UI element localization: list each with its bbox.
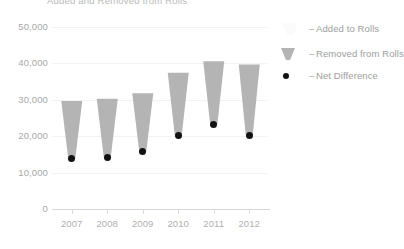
funnel-bar-2009[interactable] [132, 93, 153, 152]
net-difference-dot-2011[interactable] [210, 121, 217, 128]
y-tick-label-40000: 40,000 [2, 58, 48, 68]
x-tick-mark-2011 [214, 210, 215, 214]
net-difference-dot-2012[interactable] [246, 132, 253, 139]
chart-title: Added and Removed from Rolls [47, 0, 187, 6]
x-tick-label-2009: 2009 [123, 218, 163, 229]
x-tick-mark-2008 [107, 210, 108, 214]
x-tick-label-2011: 2011 [194, 218, 234, 229]
funnel-group [61, 61, 260, 159]
x-tick-label-2007: 2007 [52, 218, 92, 229]
gridline-40000 [52, 63, 267, 64]
y-tick-label-30000: 30,000 [2, 95, 48, 105]
gridline-10000 [52, 173, 267, 174]
gridline-20000 [52, 136, 267, 137]
y-tick-label-20000: 20,000 [2, 131, 48, 141]
y-tick-label-50000: 50,000 [2, 22, 48, 32]
legend-dash-2: – [309, 69, 314, 83]
dot-swatch-icon [277, 69, 303, 83]
x-tick-mark-2007 [72, 210, 73, 214]
y-axis: 50,000 40,000 30,000 20,000 10,000 0 [0, 0, 48, 249]
x-tick-mark-2010 [178, 210, 179, 214]
net-difference-dot-2007[interactable] [68, 155, 75, 162]
x-tick-label-2012: 2012 [229, 218, 269, 229]
funnel-bar-2008[interactable] [97, 99, 118, 158]
funnel-swatch-icon [277, 47, 303, 61]
funnel-top-swatch-icon [277, 22, 303, 36]
funnel-bar-2010[interactable] [168, 73, 189, 135]
legend-dash-1: – [309, 47, 314, 61]
y-tick-label-10000: 10,000 [2, 168, 48, 178]
x-tick-label-2010: 2010 [158, 218, 198, 229]
net-difference-dot-2009[interactable] [139, 148, 146, 155]
gridline-50000 [52, 27, 267, 28]
x-axis-baseline [52, 209, 270, 210]
legend-dash-0: – [309, 22, 314, 36]
x-tick-mark-2012 [249, 210, 250, 214]
legend-label-net-difference: Net Difference [316, 69, 378, 83]
funnel-bar-2011[interactable] [203, 61, 224, 125]
x-tick-label-2008: 2008 [87, 218, 127, 229]
net-difference-dot-2008[interactable] [104, 154, 111, 161]
net-difference-dot-2010[interactable] [175, 132, 182, 139]
funnel-bar-2007[interactable] [61, 101, 82, 159]
x-tick-mark-2009 [143, 210, 144, 214]
y-tick-label-0: 0 [2, 204, 48, 214]
legend-label-added-to-rolls: Added to Rolls [316, 22, 379, 36]
legend-label-removed-from-rolls: Removed from Rolls [316, 47, 404, 61]
gridline-30000 [52, 100, 267, 101]
